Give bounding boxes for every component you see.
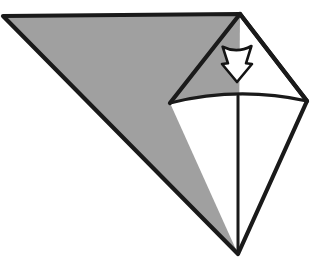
origami-figure-container: Paper folding step diagram Shaded triang… <box>0 0 321 278</box>
origami-fold-diagram: Paper folding step diagram Shaded triang… <box>0 0 321 278</box>
